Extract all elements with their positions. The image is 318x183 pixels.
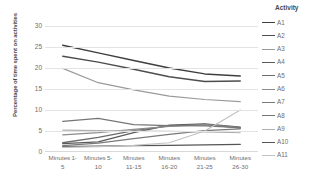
x-axis-tick-label-line: Minutes [223,154,259,163]
legend-item-label: A1 [277,20,285,26]
x-axis-tick-label-line: Minutes [116,154,152,163]
legend-line-swatch-icon [262,89,275,90]
x-axis-tick-label: Minutes16-20 [152,154,188,182]
legend-line-swatch-icon [262,115,275,116]
x-axis-tick-label-line: Minutes 5- [81,154,117,163]
legend-item-a10[interactable]: A10 [262,136,316,149]
legend-line-swatch-icon [262,49,275,50]
y-axis-tick-label: 25 [24,44,42,51]
x-axis-tick-label: Minutes11-15 [116,154,152,182]
legend-item-label: A2 [277,33,285,39]
legend-item-label: A6 [277,86,285,92]
legend-item-a11[interactable]: A11 [262,149,316,162]
legend-item-label: A8 [277,113,285,119]
x-axis-tick-label: Minutes 1-5 [45,154,81,182]
x-axis-line [45,151,258,152]
legend-line-swatch-icon [262,102,275,103]
gridline [45,68,258,69]
legend: Activity A1A2A3A4A5A6A7A8A9A10A11 [262,4,316,180]
legend-item-a1[interactable]: A1 [262,16,316,29]
gridline [45,47,258,48]
plot-area [45,26,258,152]
x-axis-tick-labels: Minutes 1-5Minutes 5-10Minutes11-15Minut… [45,154,258,182]
x-axis-tick-label-line: 10 [81,163,117,172]
y-axis-tick-label: 10 [24,107,42,114]
x-axis-tick-label-line: 21-25 [187,163,223,172]
y-axis-tick-labels: 302520151050 [24,20,42,152]
legend-line-swatch-icon [262,129,275,130]
x-axis-tick-label-line: 11-15 [116,163,152,172]
x-axis-tick-label-line: Minutes [187,154,223,163]
legend-line-swatch-icon [262,62,275,63]
gridline [45,89,258,90]
y-axis-tick-label: 20 [24,65,42,72]
x-axis-tick-label: Minutes26-30 [223,154,259,182]
x-axis-tick-label: Minutes21-25 [187,154,223,182]
y-axis-tick-label: 30 [24,23,42,30]
legend-item-label: A10 [277,139,288,145]
x-axis-tick-label-line: 26-30 [223,163,259,172]
x-axis-tick-label-line: 5 [45,163,81,172]
y-axis-tick-label: 5 [24,128,42,135]
legend-item-a9[interactable]: A9 [262,122,316,135]
legend-item-a2[interactable]: A2 [262,29,316,42]
x-axis-tick-label-line: Minutes 1- [45,154,81,163]
x-axis-tick-label-line: 16-20 [152,163,188,172]
legend-item-list: A1A2A3A4A5A6A7A8A9A10A11 [262,16,316,162]
gridline [45,26,258,27]
legend-line-swatch-icon [262,22,275,23]
y-axis-title: Percentage of time spent on activities [12,1,18,129]
legend-item-label: A3 [277,46,285,52]
legend-item-label: A4 [277,59,285,65]
legend-item-a8[interactable]: A8 [262,109,316,122]
x-axis-tick-label-line: Minutes [152,154,188,163]
legend-item-label: A9 [277,126,285,132]
legend-item-a6[interactable]: A6 [262,82,316,95]
x-axis-tick-label: Minutes 5-10 [81,154,117,182]
legend-line-swatch-icon [262,142,275,143]
legend-item-a3[interactable]: A3 [262,43,316,56]
legend-line-swatch-icon [262,75,275,76]
legend-line-swatch-icon [262,155,275,156]
legend-item-label: A7 [277,99,285,105]
legend-line-swatch-icon [262,35,275,36]
legend-item-label: A11 [277,152,288,158]
gridline [45,131,258,132]
legend-item-a7[interactable]: A7 [262,96,316,109]
gridline [45,110,258,111]
legend-item-a4[interactable]: A4 [262,56,316,69]
y-axis-tick-label: 15 [24,86,42,93]
y-axis-tick-label: 0 [24,149,42,156]
line-chart: Percentage of time spent on activities 3… [0,0,318,183]
legend-title: Activity [275,4,316,11]
legend-item-a5[interactable]: A5 [262,69,316,82]
legend-item-label: A5 [277,73,285,79]
